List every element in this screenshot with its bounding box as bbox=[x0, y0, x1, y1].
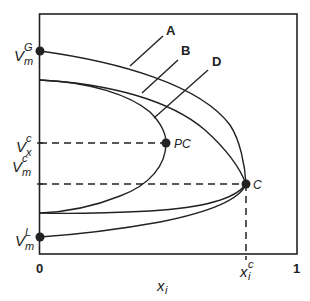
x-tick-1: 1 bbox=[293, 261, 300, 276]
curve-a-upper bbox=[40, 51, 246, 184]
curve-b-lower bbox=[40, 184, 246, 213]
point-c bbox=[242, 180, 251, 189]
curve-label-a: A bbox=[166, 23, 175, 38]
leader-a bbox=[130, 36, 163, 66]
curve-d-lower bbox=[40, 143, 166, 213]
point-vml bbox=[36, 233, 45, 242]
leader-b bbox=[142, 60, 178, 93]
x-axis-label: x i bbox=[157, 278, 165, 294]
point-pc bbox=[162, 139, 171, 148]
leader-d bbox=[154, 70, 208, 118]
phase-diagram bbox=[0, 0, 310, 301]
curve-label-b: B bbox=[181, 43, 190, 58]
curve-label-d: D bbox=[212, 54, 221, 69]
x-tick-0: 0 bbox=[36, 261, 43, 276]
point-label-c: C bbox=[253, 178, 262, 192]
curve-b-upper bbox=[40, 80, 246, 184]
plot-frame bbox=[40, 14, 298, 254]
curve-d-upper bbox=[40, 80, 166, 143]
label-vml: V L m bbox=[15, 233, 25, 249]
point-vmg bbox=[36, 47, 45, 56]
point-label-pc: PC bbox=[174, 137, 191, 151]
label-xic: x c i bbox=[240, 264, 248, 280]
label-vmc: V c m bbox=[12, 159, 22, 175]
label-vmg: V G m bbox=[14, 48, 24, 64]
